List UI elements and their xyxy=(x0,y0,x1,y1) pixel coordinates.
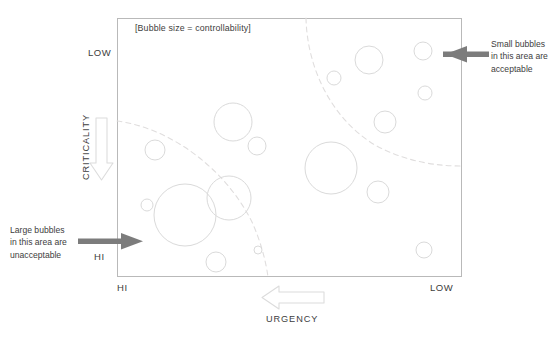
right-annotation-text: Small bubbles in this area are acceptabl… xyxy=(491,38,548,75)
x-axis-right-label: LOW xyxy=(430,282,453,295)
criticality-direction-arrow-icon xyxy=(90,118,113,180)
y-axis-title: CRITICALITY xyxy=(80,114,92,180)
x-axis-left-label: HI xyxy=(117,282,128,295)
plot-frame xyxy=(118,19,462,277)
left-annotation-text: Large bubbles in this area are unaccepta… xyxy=(10,224,67,261)
bubble-size-legend-note: [Bubble size = controllability] xyxy=(135,23,251,33)
urgency-direction-arrow-icon xyxy=(262,286,324,309)
y-axis-bottom-label: HI xyxy=(94,251,105,264)
x-axis-title: URGENCY xyxy=(266,313,318,325)
bubble-matrix-figure: [Bubble size = controllability] LOW HI C… xyxy=(0,0,559,338)
y-axis-top-label: LOW xyxy=(88,47,111,60)
